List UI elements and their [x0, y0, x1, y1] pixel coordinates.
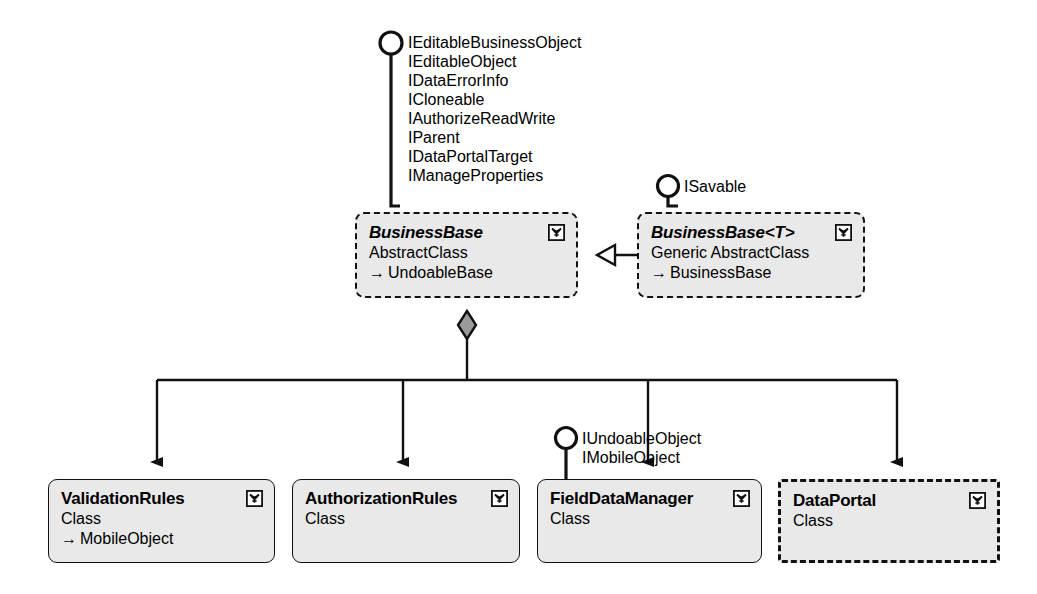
- class-collapse-chevron-icon[interactable]: [246, 490, 263, 507]
- generalization-edge: [597, 245, 637, 265]
- class-collapse-chevron-icon[interactable]: [733, 490, 750, 507]
- class-stereotype: Class: [61, 509, 262, 529]
- class-title: ValidationRules: [61, 489, 262, 509]
- class-base-type: →MobileObject: [61, 529, 262, 549]
- inherits-arrow-icon: →: [369, 264, 388, 281]
- class-stereotype: Class: [305, 509, 507, 529]
- class-title: BusinessBase: [369, 223, 564, 243]
- class-base-type: →BusinessBase: [651, 263, 851, 283]
- class-base-type-label: MobileObject: [80, 530, 173, 547]
- interface-label: IMobileObject: [582, 448, 701, 467]
- class-collapse-chevron-icon[interactable]: [835, 224, 852, 241]
- class-title: DataPortal: [793, 491, 985, 511]
- interface-label: IDataPortalTarget: [408, 147, 581, 166]
- class-collapse-chevron-icon[interactable]: [491, 490, 508, 507]
- class-stereotype: Class: [793, 511, 985, 531]
- class-collapse-chevron-icon[interactable]: [969, 492, 986, 509]
- lollipop-stem-field-data-manager: [556, 428, 577, 480]
- lollipop-stem-business-base: [380, 32, 402, 206]
- inherits-arrow-icon: →: [61, 530, 80, 547]
- class-title: BusinessBase<T>: [651, 223, 851, 243]
- interface-label: IEditableObject: [408, 52, 581, 71]
- class-stereotype: Generic AbstractClass: [651, 243, 851, 263]
- class-title: AuthorizationRules: [305, 489, 507, 509]
- interface-label: IParent: [408, 128, 581, 147]
- class-stereotype: Class: [550, 509, 749, 529]
- class-node-data-portal[interactable]: DataPortal Class: [778, 479, 1000, 563]
- class-node-business-base[interactable]: BusinessBase AbstractClass →UndoableBase: [355, 212, 578, 298]
- interface-label: IUndoableObject: [582, 429, 701, 448]
- class-stereotype: AbstractClass: [369, 243, 564, 263]
- class-collapse-chevron-icon[interactable]: [548, 224, 565, 241]
- interface-label: ISavable: [684, 177, 746, 196]
- inherits-arrow-icon: →: [651, 264, 670, 281]
- class-base-type: →UndoableBase: [369, 263, 564, 283]
- interface-label: IManageProperties: [408, 166, 581, 185]
- class-base-type-label: BusinessBase: [670, 264, 771, 281]
- class-title: FieldDataManager: [550, 489, 749, 509]
- uml-class-diagram: IEditableBusinessObject IEditableObject …: [0, 0, 1037, 594]
- class-node-validation-rules[interactable]: ValidationRules Class →MobileObject: [48, 479, 275, 563]
- class-node-field-data-manager[interactable]: FieldDataManager Class: [537, 479, 762, 563]
- class-base-type-label: UndoableBase: [388, 264, 493, 281]
- class-node-business-base-generic[interactable]: BusinessBase<T> Generic AbstractClass →B…: [637, 212, 865, 298]
- business-base-interface-labels: IEditableBusinessObject IEditableObject …: [408, 33, 581, 185]
- isavable-interface-label: ISavable: [684, 177, 746, 196]
- interface-label: IAuthorizeReadWrite: [408, 109, 581, 128]
- field-data-manager-interface-labels: IUndoableObject IMobileObject: [582, 429, 701, 467]
- lollipop-stem-isavable: [658, 176, 679, 207]
- aggregation-edge: [157, 311, 897, 462]
- interface-label: IEditableBusinessObject: [408, 33, 581, 52]
- class-node-authorization-rules[interactable]: AuthorizationRules Class: [292, 479, 520, 563]
- interface-label: ICloneable: [408, 90, 581, 109]
- interface-label: IDataErrorInfo: [408, 71, 581, 90]
